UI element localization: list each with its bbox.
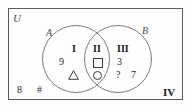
circle-icon — [93, 71, 102, 80]
region-numeral-iv: IV — [163, 87, 175, 98]
region-numeral-iii: III — [117, 44, 129, 54]
universal-set-label: U — [13, 13, 21, 24]
element-hash: # — [37, 85, 42, 95]
triangle-icon — [63, 70, 73, 79]
element-three: 3 — [117, 57, 122, 67]
square-icon — [93, 58, 103, 68]
set-a-label: A — [46, 28, 52, 38]
venn-diagram-figure: U A B I II III IV 9 △ □ ○ 3 ? 7 8 # — [0, 0, 193, 109]
element-seven: 7 — [131, 70, 136, 80]
element-eight: 8 — [17, 85, 22, 95]
element-question-mark: ? — [116, 70, 120, 80]
region-numeral-ii: II — [93, 44, 101, 54]
region-numeral-i: I — [72, 44, 76, 54]
element-nine: 9 — [59, 57, 64, 67]
set-b-label: B — [142, 26, 148, 36]
